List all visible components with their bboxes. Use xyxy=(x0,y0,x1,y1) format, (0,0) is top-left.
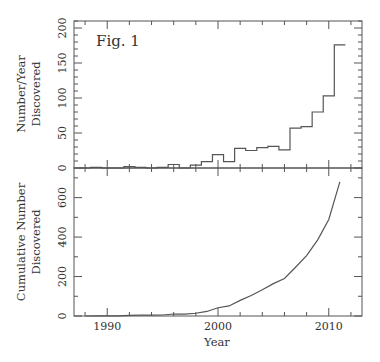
y-tick-label: 600 xyxy=(56,187,69,208)
figure: 050100150200 Fig. 1 Number/Year Discover… xyxy=(0,0,380,362)
cumulative-line-series xyxy=(85,182,340,316)
y-tick-label: 0 xyxy=(56,313,69,320)
y-tick-label: 0 xyxy=(56,165,69,172)
y-tick-label: 200 xyxy=(56,266,69,287)
bottom-y-axis-title-line2: Discovered xyxy=(29,209,43,275)
y-tick-label: 50 xyxy=(56,126,69,140)
figure-label: Fig. 1 xyxy=(96,32,140,50)
y-tick-label: 150 xyxy=(56,53,69,74)
bottom-plot-frame xyxy=(74,168,362,316)
y-tick-label: 400 xyxy=(56,227,69,248)
top-y-axis-title-line1: Number/Year xyxy=(14,55,28,133)
y-tick-label: 200 xyxy=(56,18,69,39)
top-panel: 050100150200 Fig. 1 Number/Year Discover… xyxy=(14,18,362,172)
bottom-panel: 0200400600 199020002010 Cumulative Numbe… xyxy=(14,168,362,349)
x-tick-label: 2010 xyxy=(315,320,343,333)
bottom-y-ticks: 0200400600 xyxy=(56,178,362,320)
bottom-y-axis-title-line1: Cumulative Number xyxy=(14,182,28,301)
x-axis-title: Year xyxy=(203,335,230,349)
x-tick-label: 2000 xyxy=(204,320,232,333)
histogram-series xyxy=(80,45,346,168)
x-tick-label: 1990 xyxy=(93,320,121,333)
y-tick-label: 100 xyxy=(56,88,69,109)
top-y-axis-title-line2: Discovered xyxy=(29,61,43,127)
